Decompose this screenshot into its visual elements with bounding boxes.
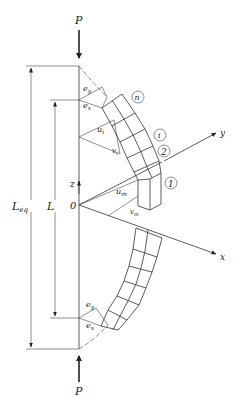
svg-text:i: i [158,131,161,140]
top-ey-label: ey [83,84,92,95]
segment-label-2: 2 [158,145,170,157]
u-i-label: ui [97,125,104,135]
segment-label-i: i [154,129,166,141]
origin-label: 0 [70,200,77,211]
y-axis: y [79,128,226,205]
y-axis-label: y [219,128,226,138]
top-load: P [74,14,83,58]
x-axis: x [79,205,225,262]
upper-column-segments [102,94,161,210]
bottom-ey-label: ey [86,300,95,311]
top-load-label: P [74,14,83,27]
dimension-leq: Leq [11,68,31,347]
svg-text:2: 2 [160,147,167,157]
bottom-load: P [74,356,83,398]
dimension-l: L [46,102,55,316]
svg-text:1: 1 [168,179,174,189]
segment-label-1: 1 [165,177,177,189]
z-axis: z [69,179,79,194]
displacement-m: um vm [79,180,139,217]
top-eccentricity: ey ex [79,84,107,111]
z-axis-label: z [69,179,75,189]
dimension-leq-label: Leq [11,200,28,214]
u-m-label: um [116,187,127,197]
x-axis-label: x [220,252,225,262]
v-m-label: vm [130,208,139,217]
bottom-load-label: P [74,385,83,398]
svg-text:n: n [135,93,140,102]
lower-column-segments [101,228,162,330]
top-ex-label: ex [83,101,92,111]
bottom-ex-label: ex [86,321,95,331]
curved-column-diagram: P P Leq L z 0 y x [0,0,238,398]
segment-label-n: n [132,91,144,103]
v-i-label: vi [112,147,118,156]
dimension-l-label: L [46,200,54,213]
